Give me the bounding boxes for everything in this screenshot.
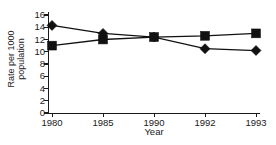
data-point-square-1993 bbox=[252, 29, 261, 38]
y-tick-label: 6 bbox=[40, 72, 45, 82]
y-axis-title-line-2: population bbox=[16, 30, 26, 87]
plot-area: 0246810121416 19801985199019921993 bbox=[48, 15, 260, 113]
y-tick-label: 10 bbox=[34, 47, 45, 57]
data-point-diamond-1993 bbox=[251, 46, 261, 56]
y-tick-label: 2 bbox=[40, 96, 45, 106]
chart-figure: Rate per 1000 population 0246810121416 1… bbox=[0, 0, 276, 145]
y-tick-label: 8 bbox=[40, 59, 45, 69]
data-point-square-1985 bbox=[99, 35, 108, 44]
data-point-diamond-1980 bbox=[47, 20, 57, 30]
y-tick-label: 12 bbox=[34, 35, 45, 45]
data-point-square-1980 bbox=[48, 41, 57, 50]
y-axis-title: Rate per 1000 population bbox=[0, 0, 32, 118]
data-point-square-1992 bbox=[201, 31, 210, 40]
series-plot bbox=[48, 15, 260, 113]
data-point-diamond-1992 bbox=[200, 44, 210, 54]
y-tick-label: 16 bbox=[34, 10, 45, 20]
y-axis-title-line-1: Rate per 1000 bbox=[6, 30, 16, 87]
y-tick-label: 4 bbox=[40, 84, 45, 94]
x-axis-title: Year bbox=[48, 127, 260, 137]
data-point-square-1990 bbox=[150, 33, 159, 42]
y-tick-label: 14 bbox=[34, 23, 45, 33]
